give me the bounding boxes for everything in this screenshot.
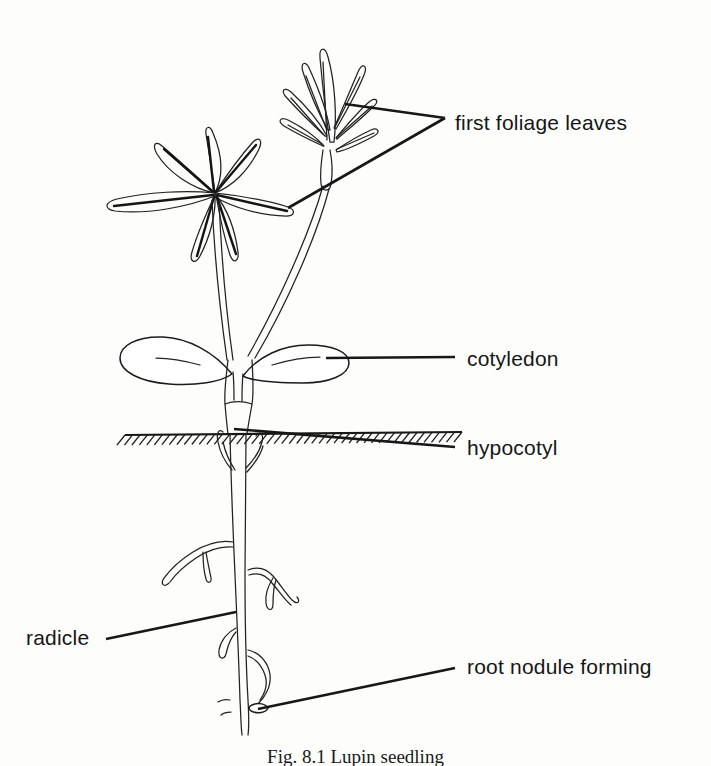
- leader-line-root-nodule-forming: [258, 668, 455, 709]
- soil-hatch-mark: [162, 435, 170, 445]
- soil-hatch-mark: [259, 434, 267, 444]
- soil-hatch-mark: [169, 435, 177, 445]
- soil-hatch-mark: [319, 433, 327, 443]
- soil-hatch-mark: [454, 432, 462, 442]
- label-cotyledon: cotyledon: [467, 348, 559, 369]
- soil-hatch-mark: [177, 435, 185, 445]
- label-radicle: radicle: [26, 627, 89, 648]
- soil-hatch-mark: [409, 432, 417, 442]
- soil-hatch-mark: [432, 432, 440, 442]
- soil-hatch-mark: [132, 435, 140, 445]
- soil-hatch-mark: [424, 432, 432, 442]
- soil-hatch-mark: [117, 435, 125, 445]
- soil-hatch-mark: [267, 434, 275, 444]
- label-hypocotyl: hypocotyl: [467, 437, 558, 458]
- palmate-leaf-group: [107, 127, 293, 261]
- soil-hatch-mark: [199, 434, 207, 444]
- leader-lines-group: [106, 104, 455, 709]
- cotyledons-group: [120, 337, 349, 401]
- leader-line-radicle: [106, 612, 236, 639]
- soil-hatch-mark: [147, 435, 155, 445]
- soil-hatch-mark: [184, 434, 192, 444]
- figure-container: first foliage leaves cotyledon hypocotyl…: [0, 0, 711, 766]
- root-system-group: [162, 431, 298, 735]
- label-first-foliage-leaves: first foliage leaves: [455, 112, 627, 133]
- leader-line-cotyledon: [326, 357, 455, 358]
- soil-hatch-mark: [154, 435, 162, 445]
- bud-cluster-group: [280, 49, 378, 190]
- soil-hatch-mark: [447, 432, 455, 442]
- label-root-nodule-forming: root nodule forming: [467, 656, 652, 677]
- soil-hatch-mark: [237, 434, 245, 444]
- soil-hatch-mark: [402, 433, 410, 443]
- figure-caption: Fig. 8.1 Lupin seedling: [0, 747, 711, 766]
- soil-hatch-mark: [439, 432, 447, 442]
- petioles-group: [212, 186, 329, 360]
- soil-hatch-mark: [192, 434, 200, 444]
- soil-hatch-mark: [124, 435, 132, 445]
- soil-hatch-mark: [139, 435, 147, 445]
- soil-hatch-mark: [417, 432, 425, 442]
- soil-hatch-mark: [207, 434, 215, 444]
- soil-hatch-mark: [282, 434, 290, 444]
- soil-hatch-mark: [274, 434, 282, 444]
